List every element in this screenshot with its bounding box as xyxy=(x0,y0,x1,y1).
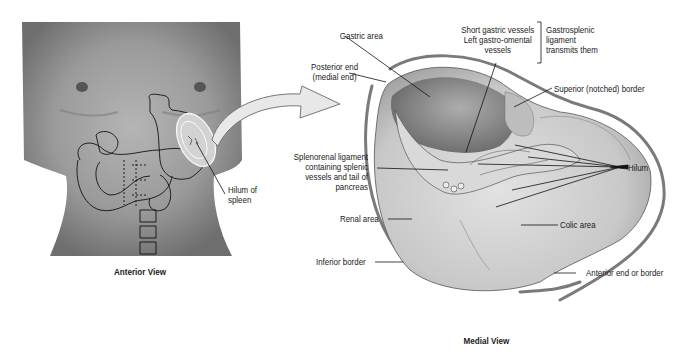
label-line: (medial end) xyxy=(311,72,358,82)
label-line: ligament xyxy=(546,35,598,45)
label-splenorenal-ligament: Splenorenal ligament containing splenic … xyxy=(276,152,368,192)
label-hilum-of-spleen: Hilum of spleen xyxy=(228,185,257,205)
label-inferior-border: Inferior border xyxy=(316,257,366,267)
label-line: transmits them xyxy=(546,45,598,55)
label-anterior-end: Anterior end or border xyxy=(586,268,663,278)
label-line: Posterior end xyxy=(311,62,358,72)
spleen-medial-surface xyxy=(374,67,651,290)
label-line: pancreas xyxy=(276,182,368,192)
label-line: vessels xyxy=(460,45,535,55)
label-line: containing splenic xyxy=(276,162,368,172)
label-line: Gastrosplenic xyxy=(546,25,598,35)
label-line: Splenorenal ligament xyxy=(276,152,368,162)
label-gastrosplenic-ligament: Gastrosplenic ligament transmits them xyxy=(546,25,598,55)
gastrosplenic-bracket xyxy=(537,22,541,63)
label-superior-border: Superior (notched) border xyxy=(554,84,645,94)
caption-anterior-view: Anterior View xyxy=(114,267,166,277)
label-renal-area: Renal area xyxy=(340,214,379,224)
label-hilum: Hilum xyxy=(628,163,648,173)
label-hilum-line: Hilum of xyxy=(228,185,257,195)
label-line: Left gastro-omental xyxy=(460,35,535,45)
label-posterior-end: Posterior end (medial end) xyxy=(311,62,358,82)
caption-medial-view: Medial View xyxy=(464,336,510,346)
label-line: vessels and tail of xyxy=(276,172,368,182)
label-line: Short gastric vessels xyxy=(460,25,535,35)
label-gastric-area: Gastric area xyxy=(340,31,383,41)
label-hilum-line: spleen xyxy=(228,195,257,205)
label-colic-area: Colic area xyxy=(560,220,596,230)
label-short-gastric-vessels: Short gastric vessels Left gastro-omenta… xyxy=(460,25,535,55)
